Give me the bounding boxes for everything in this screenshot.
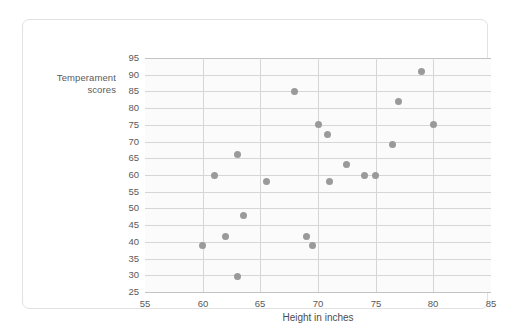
y-axis-tick-label: 80 [115,102,139,113]
x-axis-tick-label: 85 [476,298,506,309]
gridline-vertical [260,58,261,292]
scatter-point [199,242,206,249]
scatter-point [211,172,218,179]
scatter-point [361,172,368,179]
scatter-point [430,121,437,128]
y-axis-tick-label: 55 [115,186,139,197]
y-axis-tick-label: 70 [115,136,139,147]
gridline-vertical [433,58,434,292]
scatter-point [240,212,247,219]
y-axis-tick-label: 60 [115,169,139,180]
x-axis-tick-label: 75 [361,298,391,309]
y-axis-tick-label: 75 [115,119,139,130]
x-axis-tick-label: 80 [418,298,448,309]
y-axis-tick-label: 45 [115,219,139,230]
scatter-point [234,273,241,280]
scatter-point [418,68,425,75]
y-axis-tick-label: 30 [115,269,139,280]
scatter-point [263,178,270,185]
scatter-point [291,88,298,95]
x-axis-tick-label: 65 [245,298,275,309]
scatter-point [389,141,396,148]
y-axis-tick-label: 35 [115,253,139,264]
y-axis-tick-label: 90 [115,69,139,80]
scatter-point [395,98,402,105]
x-axis-tick-label: 60 [188,298,218,309]
y-axis-tick-label: 95 [115,52,139,63]
scatter-point [303,233,310,240]
y-axis-tick-label: 65 [115,152,139,163]
y-axis-tick-label: 50 [115,202,139,213]
scatter-point [222,233,229,240]
scatter-point [343,161,350,168]
y-axis-tick-label: 85 [115,85,139,96]
scatter-point [315,121,322,128]
y-axis-tick-label: 25 [115,286,139,297]
scatter-point [326,178,333,185]
y-axis-tick-label: 40 [115,236,139,247]
x-axis-tick-label: 55 [130,298,160,309]
x-axis-tick-label: 70 [303,298,333,309]
scatter-point [309,242,316,249]
scatter-point [372,172,379,179]
gridline-horizontal [145,292,491,293]
x-axis-title: Height in inches [145,312,491,323]
gridline-vertical [318,58,319,292]
chart-card: Temperament scores 253035404550556065707… [22,19,488,309]
scatter-point [324,131,331,138]
gridline-vertical [203,58,204,292]
scatter-plot-area: 2530354045505560657075808590955560657075… [145,58,491,292]
y-axis-title: Temperament scores [31,72,116,96]
y-axis-title-line-1: Temperament [31,72,116,84]
y-axis-title-line-2: scores [31,84,116,96]
